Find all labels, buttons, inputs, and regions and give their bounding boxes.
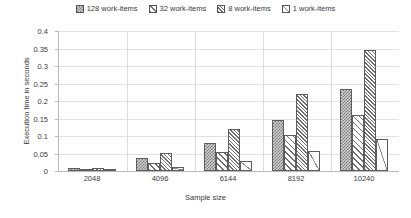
bar-6144-series-3[interactable]	[240, 161, 252, 171]
bar-2048-series-2[interactable]	[92, 168, 104, 172]
bar-6144-series-2[interactable]	[228, 129, 240, 171]
x-tick-label-6144: 6144	[220, 174, 237, 184]
bar-8192-series-2[interactable]	[296, 94, 308, 171]
bar-group-8192	[262, 31, 330, 171]
x-tick-label-10240: 10240	[354, 174, 375, 184]
bar-4096-series-2[interactable]	[160, 153, 172, 171]
bar-4096-series-1[interactable]	[148, 163, 160, 171]
bar-groups	[58, 31, 398, 171]
x-tick-label-8192: 8192	[288, 174, 305, 184]
bar-8192-series-0[interactable]	[272, 120, 284, 171]
bar-chart: 128 work-items 32 work-items 8 work-item…	[0, 0, 411, 218]
bar-group-6144	[194, 31, 262, 171]
x-axis-tick-labels: 204840966144819210240	[58, 174, 398, 186]
bar-group-2048	[58, 31, 126, 171]
x-tick-label-2048: 2048	[84, 174, 101, 184]
bar-10240-series-1[interactable]	[352, 115, 364, 171]
y-tick-label-0: 0	[44, 167, 48, 176]
x-axis-title: Sample size	[0, 193, 411, 202]
y-tick-label-5: 0.25	[33, 79, 48, 88]
plot-wrapper: Execution time in seconds 00.050.10.150.…	[0, 0, 411, 218]
y-tick-label-2: 0.1	[38, 132, 48, 141]
y-tick-label-7: 0.35	[33, 44, 48, 53]
y-tick-label-6: 0.3	[38, 62, 48, 71]
bar-10240-series-2[interactable]	[364, 50, 376, 171]
y-tick-0	[55, 171, 59, 172]
bar-8192-series-1[interactable]	[284, 135, 296, 171]
bar-group-4096	[126, 31, 194, 171]
y-axis-tick-labels: 00.050.10.150.20.250.30.350.4	[0, 31, 55, 171]
y-tick-label-1: 0.05	[33, 149, 48, 158]
bar-2048-series-0[interactable]	[68, 168, 80, 171]
y-tick-label-4: 0.2	[38, 97, 48, 106]
y-tick-label-3: 0.15	[33, 114, 48, 123]
bar-4096-series-3[interactable]	[172, 167, 184, 171]
bar-10240-series-3[interactable]	[376, 139, 388, 171]
bar-2048-series-1[interactable]	[80, 169, 92, 171]
x-tick-label-4096: 4096	[152, 174, 169, 184]
bar-10240-series-0[interactable]	[340, 89, 352, 171]
y-tick-label-8: 0.4	[38, 27, 48, 36]
bar-4096-series-0[interactable]	[136, 158, 148, 171]
bar-2048-series-3[interactable]	[104, 169, 116, 171]
bar-group-10240	[330, 31, 398, 171]
bar-8192-series-3[interactable]	[308, 151, 320, 171]
gridline-0	[59, 171, 399, 172]
bar-6144-series-0[interactable]	[204, 143, 216, 171]
bar-6144-series-1[interactable]	[216, 152, 228, 171]
